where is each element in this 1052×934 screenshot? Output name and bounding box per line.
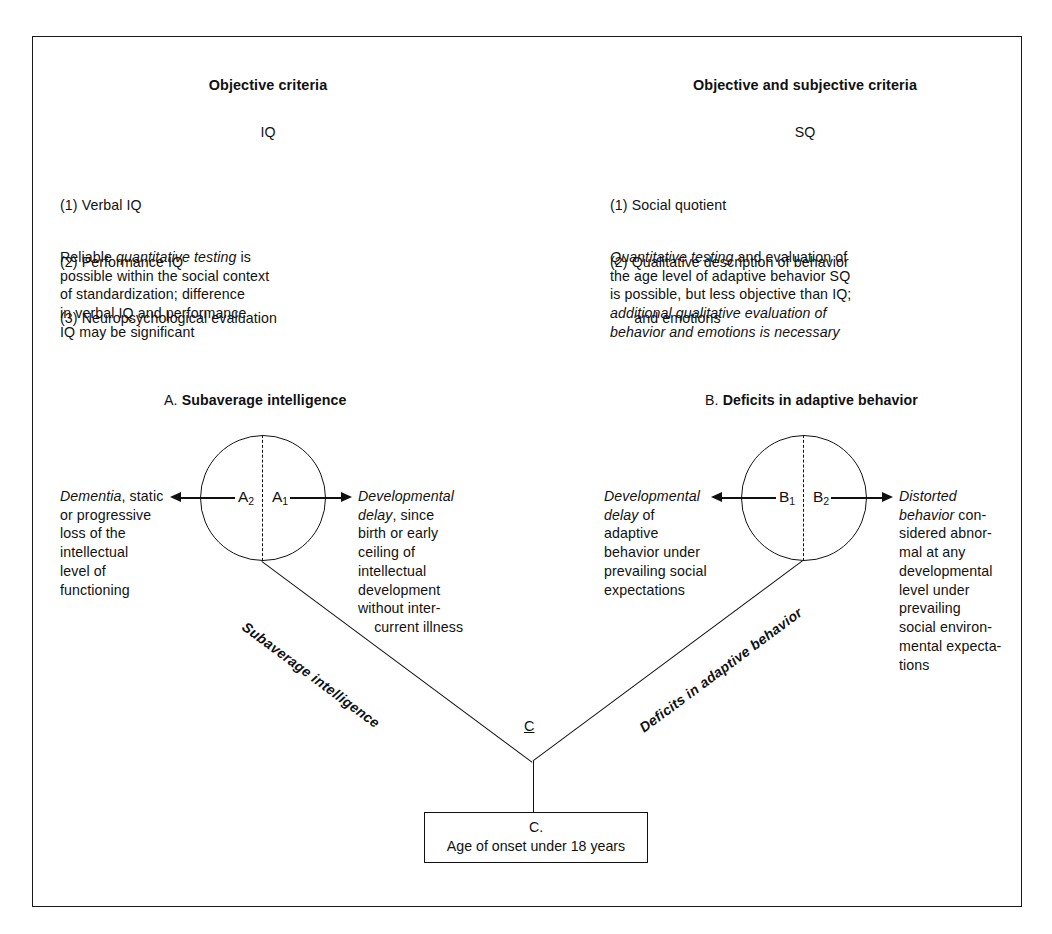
column-header-sq: Objective and subjective criteria	[665, 76, 945, 95]
column-measure-sq: SQ	[665, 123, 945, 142]
arrow-b2-shaft	[831, 497, 883, 499]
circle-b-divider	[803, 435, 804, 561]
note-iq-plain-1: Reliable	[60, 249, 116, 265]
section-heading-a: A. Subaverage intelligence	[164, 391, 346, 410]
section-a-right-text: Developmental delay, since birth or earl…	[358, 487, 498, 637]
node-label-a2: A2	[238, 488, 254, 507]
note-iq: Reliable quantitative testing is possibl…	[60, 248, 440, 342]
section-b-prefix: B.	[705, 392, 719, 408]
section-a-left-text: Dementia, static or progressive loss of …	[60, 487, 180, 599]
section-b-title: Deficits in adaptive behavior	[723, 392, 918, 408]
note-sq-italic-1: Quantitative testing	[610, 249, 733, 265]
figure-page: Objective criteria IQ (1) Verbal IQ (2) …	[0, 0, 1052, 934]
list-item: (1) Social quotient	[610, 196, 1030, 215]
column-measure-iq: IQ	[128, 123, 408, 142]
node-label-b2: B2	[813, 488, 829, 507]
arrow-b2-head-icon	[882, 492, 893, 502]
arrow-a1-shaft	[290, 497, 342, 499]
arrow-a1-head-icon	[341, 492, 352, 502]
section-heading-b: B. Deficits in adaptive behavior	[705, 391, 918, 410]
circle-a-divider	[262, 435, 263, 561]
section-a-prefix: A.	[164, 392, 178, 408]
arrow-b1-shaft	[722, 497, 776, 499]
note-sq: Quantitative testing and evaluation of t…	[610, 248, 1010, 342]
section-b-right-text: Distorted behavior con- sidered abnor- m…	[899, 487, 1029, 674]
onset-box: C. Age of onset under 18 years	[424, 812, 648, 863]
junction-label-c: C	[524, 718, 534, 734]
node-label-a1: A1	[272, 488, 288, 507]
arrow-a2-shaft	[181, 497, 235, 499]
stem-line-c	[533, 761, 534, 813]
note-sq-italic-2: additional qualitative evaluation of beh…	[610, 305, 840, 340]
section-a-title: Subaverage intelligence	[182, 392, 347, 408]
section-b-left-text: Developmental delay of adaptive behavior…	[604, 487, 724, 599]
onset-box-line2: Age of onset under 18 years	[425, 837, 647, 856]
column-header-iq: Objective criteria	[128, 76, 408, 95]
onset-box-line1: C.	[425, 818, 647, 837]
note-iq-italic-1: quantitative testing	[116, 249, 236, 265]
node-label-b1: B1	[779, 488, 795, 507]
list-item: (1) Verbal IQ	[60, 196, 460, 215]
